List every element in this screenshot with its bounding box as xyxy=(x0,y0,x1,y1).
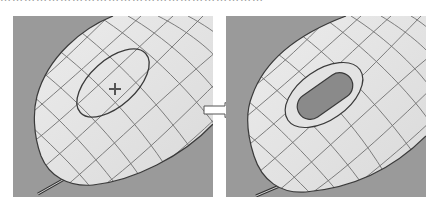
clipped-caption-text: ………………………………………………………… xyxy=(0,0,437,5)
before-illustration xyxy=(13,16,213,197)
after-panel xyxy=(226,16,426,197)
after-illustration xyxy=(226,16,426,197)
before-panel xyxy=(13,16,213,197)
